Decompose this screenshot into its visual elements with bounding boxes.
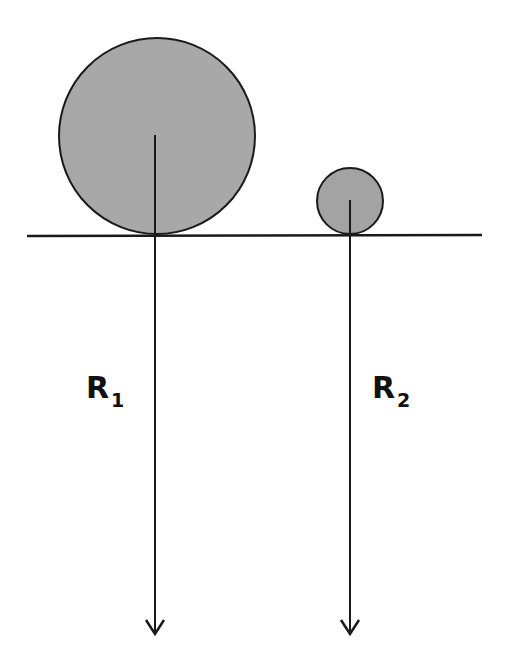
label-main: R [372,370,395,405]
label-subscript: 2 [397,389,410,411]
radius-label-1: R1 [86,373,124,410]
large-circle [59,38,255,234]
radius-arrow-2 [341,200,359,634]
radius-label-2: R2 [372,373,410,410]
label-main: R [86,370,109,405]
diagram-canvas [0,0,506,666]
label-subscript: 1 [111,389,124,411]
ground-line [27,235,482,236]
